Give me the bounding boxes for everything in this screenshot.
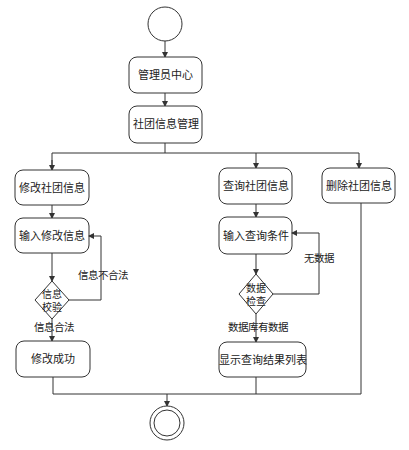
edge-label-info-invalid: 信息不合法 [78,269,128,281]
node-label: 修改成功 [31,352,75,366]
decision-label-line1: 数据 [246,282,266,294]
start-node [148,7,182,41]
edge-label-db-has-data: 数据库有数据 [228,321,289,333]
node-show-query-results: 显示查询结果列表 [219,342,307,377]
node-label: 输入修改信息 [19,229,85,243]
node-label: 显示查询结果列表 [219,353,307,367]
node-label: 输入查询条件 [223,229,289,243]
node-club-info-management: 社团信息管理 [129,106,202,143]
decision-info-check: 信息 校验 [35,281,69,319]
node-admin-center: 管理员中心 [129,57,202,93]
end-node [150,406,184,440]
edge-label-info-valid: 信息合法 [34,321,74,333]
node-input-query-conditions: 输入查询条件 [219,217,292,254]
node-modify-club-info: 修改社团信息 [15,170,89,205]
fork-line [52,153,359,168]
decision-label-line2: 检查 [246,295,266,307]
node-label: 社团信息管理 [133,117,199,131]
node-modify-success: 修改成功 [16,341,90,377]
decision-label-line1: 信息 [42,288,62,300]
decision-label-line2: 校验 [42,301,62,313]
node-delete-club-info: 删除社团信息 [322,168,395,203]
node-label: 删除社团信息 [326,179,392,193]
node-label: 修改社团信息 [19,181,85,195]
node-label: 查询社团信息 [223,179,289,193]
edge-label-no-data: 无数据 [304,252,335,264]
activity-diagram: 管理员中心 社团信息管理 修改社团信息 输入修改信息 信息 校验 信息不合法 信… [0,0,409,450]
node-query-club-info: 查询社团信息 [219,168,292,204]
node-input-modify-info: 输入修改信息 [15,218,89,253]
node-label: 管理员中心 [138,68,193,82]
decision-data-check: 数据 检查 [239,274,273,314]
